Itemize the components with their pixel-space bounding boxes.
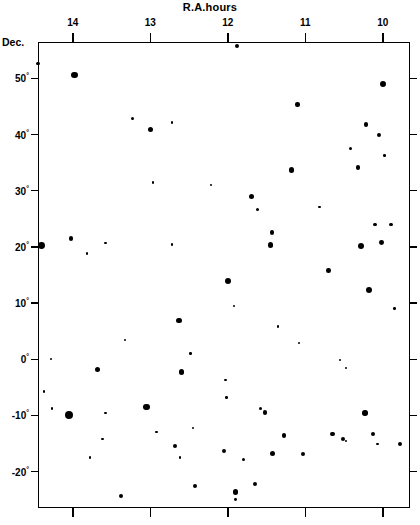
x-tick-bottom (72, 508, 73, 517)
y-tick-label: 0° (0, 353, 29, 365)
data-point (326, 268, 331, 273)
y-tick-right (409, 246, 417, 247)
data-point (379, 240, 384, 245)
chart-title: R.A.hours (0, 1, 420, 13)
data-point (51, 407, 53, 409)
y-tick-label: 50° (0, 72, 29, 84)
y-tick-label: -10° (0, 409, 29, 421)
y-tick-left (31, 302, 39, 303)
y-tick-right (409, 78, 417, 79)
data-point (393, 307, 396, 310)
x-tick-bottom (382, 508, 383, 517)
y-tick-right (409, 302, 417, 303)
data-point (152, 181, 154, 183)
data-point (282, 433, 286, 437)
x-tick-top (382, 33, 383, 42)
data-point (349, 147, 352, 150)
data-point (225, 396, 227, 398)
x-tick-top (72, 33, 73, 42)
data-point (176, 318, 181, 323)
data-point (192, 427, 194, 429)
x-tick-bottom (150, 508, 151, 517)
x-tick-top (150, 33, 151, 42)
data-point (69, 236, 73, 240)
data-point (179, 369, 184, 374)
data-point (224, 379, 227, 382)
y-tick-right (409, 471, 417, 472)
data-point (233, 489, 239, 495)
data-point (143, 404, 150, 411)
y-tick-label: 40° (0, 129, 29, 141)
y-tick-right (409, 359, 417, 360)
data-point (89, 456, 92, 459)
data-point (86, 252, 88, 254)
sky-chart: R.A.hours Dec. 1413121110 50°40°30°20°10… (0, 0, 420, 525)
x-tick-label: 12 (215, 17, 241, 28)
data-point (389, 223, 393, 227)
data-point (101, 438, 104, 441)
y-tick-left (31, 190, 39, 191)
data-point (193, 484, 197, 488)
data-point (71, 72, 77, 78)
data-point (38, 242, 45, 249)
data-point (234, 498, 237, 501)
data-point (253, 482, 257, 486)
data-point (330, 432, 334, 436)
data-point (295, 102, 299, 106)
x-tick-label: 11 (292, 17, 318, 28)
data-point (398, 442, 402, 446)
data-point (371, 432, 375, 436)
x-tick-label: 13 (137, 17, 163, 28)
data-point (104, 242, 106, 244)
data-point (222, 449, 226, 453)
data-point (364, 122, 369, 127)
y-axis-title: Dec. (2, 36, 24, 48)
y-tick-left (31, 359, 39, 360)
plot-frame (38, 42, 410, 508)
y-tick-left (31, 134, 39, 135)
data-point (373, 223, 377, 227)
x-tick-top (227, 33, 228, 42)
data-point (225, 278, 231, 284)
data-point (119, 494, 123, 498)
y-tick-label: 30° (0, 185, 29, 197)
data-point (179, 456, 182, 459)
data-point (318, 206, 321, 209)
data-point (289, 167, 294, 172)
y-tick-right (409, 190, 417, 191)
data-point (383, 154, 385, 156)
y-tick-label: 10° (0, 297, 29, 309)
data-point (104, 412, 106, 414)
data-point (189, 352, 191, 354)
x-tick-label: 10 (370, 17, 396, 28)
data-point (377, 133, 381, 137)
data-point (171, 121, 174, 124)
y-tick-right (409, 415, 417, 416)
y-tick-right (409, 134, 417, 135)
x-tick-bottom (227, 508, 228, 517)
data-point (376, 443, 378, 445)
data-point (256, 208, 259, 211)
y-tick-left (31, 415, 39, 416)
y-tick-left (31, 471, 39, 472)
x-tick-top (305, 33, 306, 42)
y-tick-left (31, 78, 39, 79)
y-tick-label: 20° (0, 241, 29, 253)
data-point (362, 410, 367, 415)
data-point (270, 230, 275, 235)
x-tick-bottom (305, 508, 306, 517)
data-point (95, 367, 100, 372)
y-tick-label: -20° (0, 466, 29, 478)
x-tick-label: 14 (60, 17, 86, 28)
